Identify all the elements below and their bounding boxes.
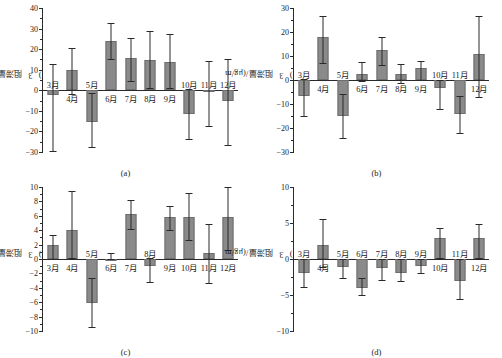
error-bar-cap-upper (166, 206, 173, 207)
error-bar-cap-lower (456, 133, 463, 134)
x-axis-month-label: 12月 (220, 261, 236, 273)
plot-area: 3月4月5月6月7月8月9月10月11月12月 (293, 8, 489, 152)
y-tick-label: 0 (34, 86, 38, 95)
bar-group: 5月 (82, 187, 102, 331)
bar-group: 6月 (102, 8, 122, 152)
plot-area: 3月4月5月6月7月8月9月10月11月12月 (42, 187, 238, 331)
panel-caption: (c) (0, 347, 251, 357)
error-bar-cap-upper (166, 34, 173, 35)
bar-group: 12月 (470, 187, 490, 331)
x-axis-month-label: 11月 (201, 78, 217, 90)
bar-group: 9月 (160, 187, 180, 331)
y-tick-label: −20 (25, 127, 38, 136)
error-bar-cap-lower (378, 65, 385, 66)
panel-caption: (a) (0, 168, 251, 178)
x-axis-month-label: 6月 (105, 261, 117, 273)
error-bar-cap-lower (476, 258, 483, 259)
bar-group: 7月 (372, 187, 392, 331)
error-bar-cap-lower (108, 259, 115, 260)
x-axis-month-label: 5月 (337, 68, 349, 80)
error-bar-line (208, 224, 209, 284)
error-bar-cap-lower (437, 258, 444, 259)
error-bar-cap-upper (339, 94, 346, 95)
bar-series: 3月4月5月6月7月8月9月10月11月12月 (294, 187, 489, 331)
error-bar-cap-lower (339, 138, 346, 139)
bar-group: 12月 (470, 8, 490, 152)
bar-group: 11月 (450, 187, 470, 331)
error-bar-cap-lower (225, 145, 232, 146)
y-tick-label: 10 (281, 183, 289, 192)
error-bar-cap-upper (225, 187, 232, 188)
x-axis-month-label: 10月 (181, 261, 197, 273)
error-bar-cap-lower (300, 116, 307, 117)
figure-grid: 阻滞量/(μg/m3)403020100−10−20−303月4月5月6月7月8… (0, 0, 502, 358)
error-bar-cap-lower (417, 80, 424, 81)
x-axis-month-label: 7月 (376, 247, 388, 259)
error-bar-line (381, 259, 382, 280)
error-bar-cap-upper (359, 62, 366, 63)
error-bar-cap-lower (166, 88, 173, 89)
error-bar-cap-upper (108, 253, 115, 254)
error-bar-line (362, 62, 363, 81)
error-bar-cap-upper (359, 278, 366, 279)
bar-group: 4月 (63, 187, 83, 331)
bar-group: 4月 (314, 187, 334, 331)
error-bar-cap-upper (320, 16, 327, 17)
bar-group: 11月 (199, 8, 219, 152)
error-bar-cap-upper (398, 259, 405, 260)
y-tick-label: −10 (276, 327, 289, 336)
y-tick-label: −20 (276, 124, 289, 133)
x-axis-month-label: 6月 (356, 247, 368, 259)
error-bar-line (72, 48, 73, 94)
error-bar-cap-upper (300, 259, 307, 260)
error-bar-line (189, 89, 190, 138)
y-tick-label: −4 (29, 283, 38, 292)
error-bar-line (91, 93, 92, 146)
y-tick-label: −10 (276, 100, 289, 109)
error-bar-cap-upper (147, 31, 154, 32)
x-axis-month-label: 6月 (356, 82, 368, 94)
bar-group: 10月 (431, 8, 451, 152)
error-bar-cap-lower (398, 281, 405, 282)
y-tick-label: 30 (30, 24, 38, 33)
y-axis-tick-labels: 3020100−10−20−30 (267, 8, 291, 152)
y-tick-label: 10 (30, 65, 38, 74)
y-tick-label: 10 (281, 52, 289, 61)
bar-group: 6月 (353, 8, 373, 152)
x-axis-month-label: 7月 (125, 261, 137, 273)
y-tick-label: −8 (29, 312, 38, 321)
error-bar-line (401, 64, 402, 83)
y-tick-label: −30 (25, 148, 38, 157)
error-bar-line (401, 259, 402, 281)
error-bar-cap-upper (417, 61, 424, 62)
error-bar-cap-lower (437, 109, 444, 110)
bar-group: 5月 (333, 187, 353, 331)
x-axis-month-label: 4月 (317, 82, 329, 94)
error-bar-line (150, 31, 151, 89)
chart-panel-b: 阻滞量/(μg/m3)3020100−10−20−303月4月5月6月7月8月9… (251, 0, 502, 179)
bar-group: 3月 (43, 8, 63, 152)
error-bar-line (208, 61, 209, 126)
y-tick-label: −6 (29, 298, 38, 307)
error-bar-line (91, 278, 92, 327)
bar-group: 10月 (180, 8, 200, 152)
y-tick-label: −10 (25, 106, 38, 115)
error-bar-cap-upper (49, 235, 56, 236)
error-bar-line (323, 219, 324, 267)
x-axis-month-label: 5月 (86, 78, 98, 90)
error-bar-cap-upper (456, 259, 463, 260)
error-bar-cap-upper (69, 191, 76, 192)
y-tick-label: 20 (30, 45, 38, 54)
bar-group: 8月 (392, 187, 412, 331)
x-axis-month-label: 5月 (86, 247, 98, 259)
chart-panel-d: 阻滞量/(μg/m3)1050−5−103月4月5月6月7月8月9月10月11月… (251, 179, 502, 358)
error-bar-cap-upper (108, 23, 115, 24)
y-tick-label: 30 (281, 4, 289, 13)
y-axis-label: 阻滞量/(μg/m3) (0, 0, 15, 150)
error-bar-cap-lower (339, 278, 346, 279)
bar-group: 3月 (43, 187, 63, 331)
error-bar-line (303, 259, 304, 287)
error-bar-line (72, 191, 73, 258)
x-axis-month-label: 4月 (66, 261, 78, 273)
error-bar-cap-lower (476, 97, 483, 98)
